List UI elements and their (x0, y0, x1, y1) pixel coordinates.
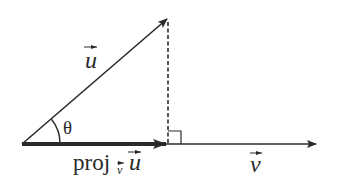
proj-prefix-text: proj (73, 150, 110, 175)
proj-arg-text: u (129, 149, 141, 175)
right-angle-marker (168, 131, 181, 144)
u-label: u (84, 47, 97, 73)
projection-label: proj v u (73, 149, 141, 177)
v-label-text: v (250, 151, 261, 177)
projection-diagram: θ u proj v u v (0, 0, 338, 183)
u-label-text: u (85, 47, 97, 73)
proj-sub-text: v (117, 163, 123, 177)
vector-u (22, 19, 167, 144)
angle-theta-label: θ (63, 117, 72, 138)
v-label: v (250, 151, 262, 177)
angle-arc (52, 119, 61, 144)
